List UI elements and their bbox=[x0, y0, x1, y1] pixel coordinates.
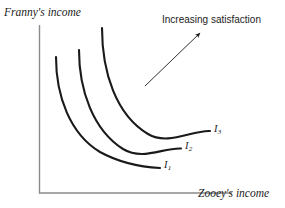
indifference-curve-figure: Franny's income Zooey's income I1 I2 I3 … bbox=[0, 0, 285, 208]
x-axis-label: Zooey's income bbox=[198, 187, 269, 200]
figure-background bbox=[0, 0, 285, 208]
y-axis-label: Franny's income bbox=[3, 6, 81, 19]
annotation-increasing-satisfaction: Increasing satisfaction bbox=[162, 14, 261, 25]
